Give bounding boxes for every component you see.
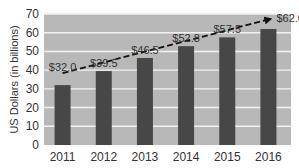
y-tick-label: 30 <box>26 82 40 96</box>
x-tick-label: 2012 <box>90 150 117 164</box>
x-tick-label: 2013 <box>132 150 159 164</box>
data-label: $32.0 <box>49 61 77 73</box>
y-tick-label: 0 <box>32 138 39 152</box>
plot-area <box>44 14 291 145</box>
data-label: $39.5 <box>90 57 118 69</box>
y-axis-label: US Dollars (in billions) <box>8 25 20 133</box>
y-tick-label: 50 <box>26 44 40 58</box>
bar-2011 <box>55 85 71 145</box>
bar-2016 <box>260 29 276 145</box>
y-tick-label: 10 <box>26 119 40 133</box>
y-tick-label: 70 <box>26 7 40 21</box>
bar-chart: 010203040506070201120122013201420152016$… <box>0 0 299 168</box>
bar-2012 <box>96 71 112 145</box>
data-label: $57.5 <box>213 23 241 35</box>
data-label: $52.8 <box>172 32 200 44</box>
data-label: $46.5 <box>131 44 159 56</box>
x-tick-label: 2015 <box>214 150 241 164</box>
x-tick-label: 2014 <box>173 150 200 164</box>
bar-2015 <box>219 37 235 145</box>
y-tick-label: 60 <box>26 26 40 40</box>
y-tick-label: 40 <box>26 63 40 77</box>
y-tick-label: 20 <box>26 101 40 115</box>
x-tick-label: 2011 <box>50 150 76 164</box>
x-tick-label: 2016 <box>255 150 282 164</box>
data-label: $62.0 <box>276 12 299 24</box>
bar-2013 <box>137 58 153 145</box>
bar-2014 <box>178 46 194 145</box>
